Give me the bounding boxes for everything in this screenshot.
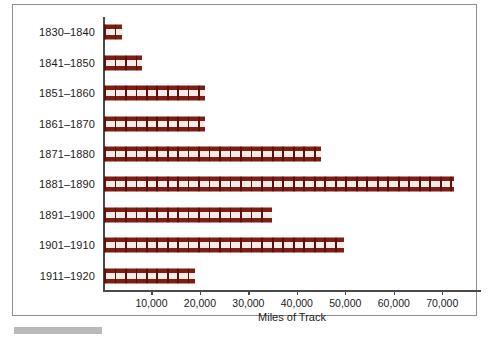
bar-row: 1851–1860 <box>103 78 433 108</box>
bar-track <box>104 238 344 253</box>
bar-track <box>104 268 195 283</box>
bar-row: 1871–1880 <box>103 139 433 169</box>
category-label: 1901–1910 <box>39 239 95 251</box>
bar-row: 1861–1870 <box>103 108 433 138</box>
figure-frame: 1830–18401841–18501851–18601861–18701871… <box>12 4 477 316</box>
x-tick-label: 20,000 <box>184 297 216 309</box>
x-tick-label: 60,000 <box>378 297 410 309</box>
bar-track <box>104 25 122 40</box>
bar-track <box>104 207 272 222</box>
category-label: 1841–1850 <box>39 57 95 69</box>
category-label: 1830–1840 <box>39 26 95 38</box>
category-label: 1871–1880 <box>39 148 95 160</box>
x-tick <box>248 290 249 295</box>
x-tick <box>297 290 298 295</box>
category-label: 1861–1870 <box>39 118 95 130</box>
bar-track <box>104 55 142 70</box>
footer-rule <box>14 327 102 334</box>
bar-row: 1891–1900 <box>103 200 433 230</box>
x-tick <box>442 290 443 295</box>
category-label: 1851–1860 <box>39 87 95 99</box>
x-tick-label: 30,000 <box>232 297 264 309</box>
bar-row: 1911–1920 <box>103 261 433 291</box>
category-label: 1881–1890 <box>39 178 95 190</box>
category-label: 1891–1900 <box>39 209 95 221</box>
bar-row: 1841–1850 <box>103 47 433 77</box>
x-tick-label: 70,000 <box>426 297 458 309</box>
bar-track <box>104 177 454 192</box>
x-tick <box>200 290 201 295</box>
x-tick <box>345 290 346 295</box>
bar-track <box>104 86 205 101</box>
bar-row: 1881–1890 <box>103 169 433 199</box>
x-tick <box>394 290 395 295</box>
bar-row: 1901–1910 <box>103 230 433 260</box>
x-tick-label: 50,000 <box>329 297 361 309</box>
x-tick-label: 10,000 <box>135 297 167 309</box>
bar-track <box>104 116 205 131</box>
plot-area: 1830–18401841–18501851–18601861–18701871… <box>103 17 433 291</box>
x-axis-title: Miles of Track <box>103 311 481 323</box>
bar-row: 1830–1840 <box>103 17 433 47</box>
x-tick <box>151 290 152 295</box>
category-label: 1911–1920 <box>40 270 95 282</box>
x-tick-label: 40,000 <box>281 297 313 309</box>
bar-track <box>104 146 321 161</box>
